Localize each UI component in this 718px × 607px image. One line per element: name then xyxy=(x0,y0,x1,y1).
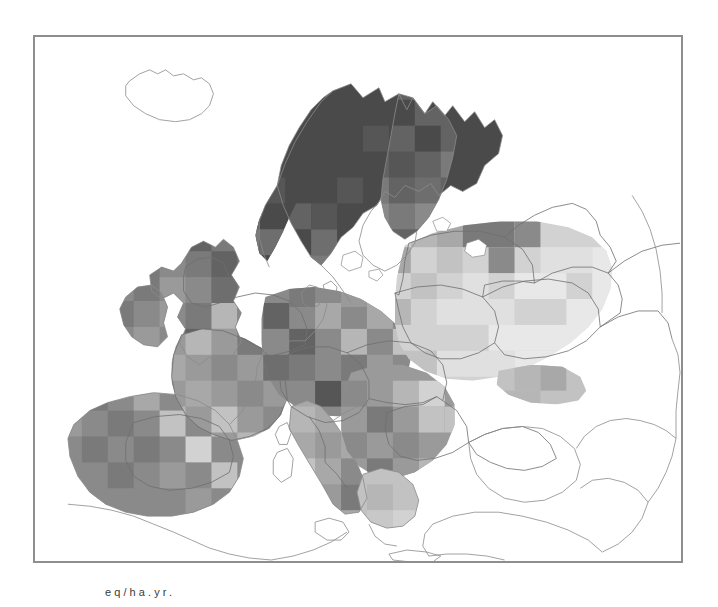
map-plot-frame xyxy=(33,35,683,563)
raster-cells-eastern-europe xyxy=(383,210,632,394)
europe-raster-map xyxy=(34,36,682,562)
lake-peipus xyxy=(369,269,383,281)
lake-onega xyxy=(433,217,451,231)
iceland-outline xyxy=(126,70,214,122)
europe-deposition-map-figure: eq/ha.yr. xyxy=(0,0,718,607)
units-caption: eq/ha.yr. xyxy=(105,586,175,598)
lake-vanern xyxy=(341,251,363,271)
